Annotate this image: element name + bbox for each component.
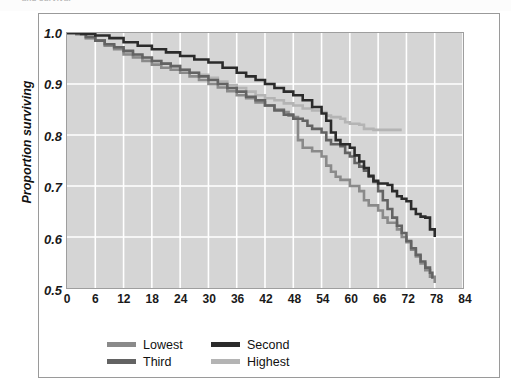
legend-label: Third [143,355,171,369]
legend-row: LowestSecond [107,336,337,353]
legend-swatch-icon [211,359,240,364]
series-line-lowest [67,33,435,283]
x-axis-tick-label: 72 [401,292,414,306]
x-axis-tick-label: 30 [202,292,215,306]
x-axis-tick-label: 66 [373,292,386,306]
y-axis-tick-label: 0.6 [44,231,62,246]
x-axis-tick-label: 12 [117,292,130,306]
plot-area: 1.00.90.80.70.60.50612182430364248546066… [66,32,464,289]
legend-swatch-icon [107,359,136,364]
cut-off-caption-strip: and survival [0,0,511,11]
x-axis-tick-label: 42 [259,292,272,306]
x-axis-tick-label: 78 [430,292,443,306]
y-axis-tick-label: 0.9 [44,77,62,92]
legend-item-third: Third [107,355,211,369]
legend-label: Second [247,338,289,352]
legend-item-second: Second [211,338,315,352]
x-axis-tick-label: 60 [345,292,358,306]
legend-swatch-icon [211,342,240,347]
survival-curves-svg [67,33,463,288]
x-axis-tick-label: 48 [288,292,301,306]
legend-swatch-icon [107,342,136,347]
legend-row: ThirdHighest [107,353,337,370]
x-axis-tick-label: 84 [458,292,471,306]
y-axis-tick-label: 0.5 [44,283,62,298]
legend-label: Lowest [143,338,183,352]
x-axis-tick-label: 36 [231,292,244,306]
y-axis-tick-label: 0.7 [44,180,62,195]
caption-text: and survival [22,0,71,3]
legend-item-lowest: Lowest [107,338,211,352]
x-axis-tick-label: 0 [64,292,71,306]
legend-item-highest: Highest [211,355,315,369]
x-axis-tick-label: 24 [174,292,187,306]
y-axis-tick-label: 1.0 [44,26,62,41]
y-axis-tick-label: 0.8 [44,128,62,143]
figure-box: 1.00.90.80.70.60.50612182430364248546066… [38,13,500,378]
y-axis-label: Proportion surviving [20,81,34,204]
x-axis-tick-label: 6 [92,292,99,306]
x-axis-tick-label: 18 [146,292,159,306]
x-axis-tick-label: 54 [316,292,329,306]
legend-label: Highest [247,355,289,369]
legend: LowestSecondThirdHighest [107,336,337,370]
